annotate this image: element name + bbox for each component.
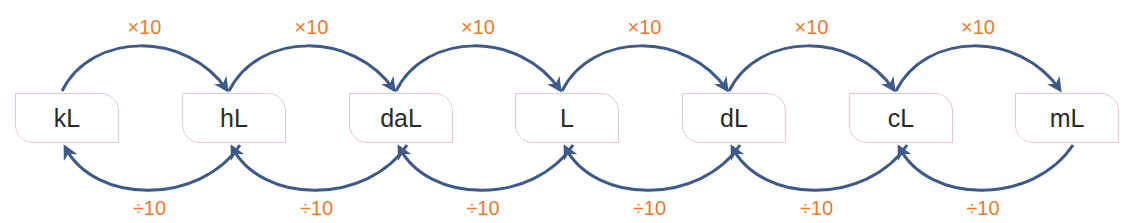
multiply-arrow <box>229 46 394 91</box>
unit-box-ml: mL <box>1015 93 1119 143</box>
divide-arrow <box>232 145 407 190</box>
unit-label: kL <box>54 104 80 133</box>
unit-label: cL <box>888 104 914 133</box>
divide-arrow <box>899 145 1073 190</box>
multiply-arrow <box>896 46 1060 91</box>
multiply-label: ×10 <box>438 17 518 37</box>
unit-box-dal: daL <box>349 93 453 143</box>
unit-label: hL <box>220 104 248 133</box>
multiply-label: ×10 <box>272 17 352 37</box>
divide-label: ÷10 <box>610 198 690 218</box>
divide-arrow <box>732 145 907 190</box>
divide-label: ÷10 <box>443 198 523 218</box>
divide-arrow <box>565 145 740 190</box>
multiply-label: ×10 <box>938 17 1018 37</box>
divide-label: ÷10 <box>277 198 357 218</box>
multiply-label: ×10 <box>605 17 685 37</box>
unit-box-l: L <box>515 93 619 143</box>
multiply-arrow <box>62 46 227 91</box>
liter-conversion-diagram: kL hL daL L dL cL mL ×10÷10×10÷10×10÷10×… <box>0 0 1129 223</box>
multiply-arrow <box>396 46 560 91</box>
unit-label: dL <box>720 104 748 133</box>
unit-box-dl: dL <box>682 93 786 143</box>
multiply-arrow <box>729 46 894 91</box>
divide-arrow <box>399 145 573 190</box>
divide-label: ÷10 <box>777 198 857 218</box>
divide-arrow <box>65 145 240 190</box>
unit-box-cl: cL <box>849 93 953 143</box>
multiply-arrow <box>562 46 727 91</box>
unit-label: L <box>560 104 574 133</box>
divide-label: ÷10 <box>943 198 1023 218</box>
divide-label: ÷10 <box>110 198 190 218</box>
multiply-label: ×10 <box>105 17 185 37</box>
unit-box-hl: hL <box>182 93 286 143</box>
unit-label: mL <box>1050 104 1085 133</box>
multiply-label: ×10 <box>772 17 852 37</box>
unit-box-kl: kL <box>15 93 119 143</box>
unit-label: daL <box>380 104 422 133</box>
